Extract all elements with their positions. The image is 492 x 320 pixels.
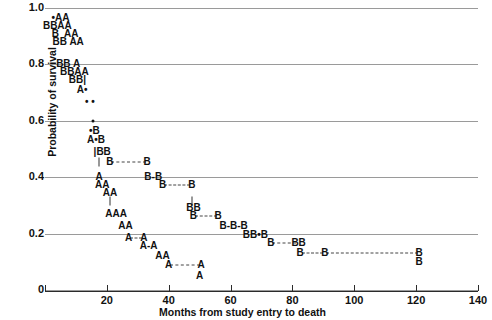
data-point-label: AAA (105, 209, 127, 219)
x-tick (478, 285, 479, 291)
data-point-label: A• (77, 85, 88, 95)
x-tick-label: 140 (458, 294, 492, 306)
data-point-label: A (198, 260, 205, 270)
gridline-y (45, 8, 478, 9)
data-point-label: A (125, 233, 132, 243)
data-point-label: AA (118, 221, 132, 231)
data-point-label: B (267, 238, 274, 248)
x-tick (169, 285, 170, 291)
censored-dot-marker (91, 119, 94, 122)
data-point-label: B (297, 248, 304, 258)
x-tick-label: 60 (211, 294, 251, 306)
censor-connector (195, 216, 217, 217)
x-tick-label: 120 (396, 294, 436, 306)
censor-connector (170, 264, 199, 265)
x-tick-label: 100 (334, 294, 374, 306)
y-tick-label: 0 (4, 284, 44, 295)
data-point-label: • • (85, 97, 95, 107)
tick-marker (109, 196, 110, 205)
censor-connector (111, 161, 145, 162)
x-axis-left-cap (45, 285, 46, 292)
x-tick-label: 20 (87, 294, 127, 306)
data-point-label: B (159, 180, 166, 190)
x-tick (416, 285, 417, 291)
x-tick (292, 285, 293, 291)
y-tick-label: 1.0 (4, 2, 44, 13)
gridline-y (45, 177, 478, 178)
censor-connector (326, 253, 417, 254)
gridline-y (45, 64, 478, 65)
x-tick-label: 80 (272, 294, 312, 306)
x-tick (231, 285, 232, 291)
x-tick (354, 285, 355, 291)
gridline-y (45, 121, 478, 122)
plot-area: •AABBAAB AABB AABB ABBAABB|A•• ••BA•B|BB… (45, 8, 478, 290)
y-tick-label: 0.4 (4, 171, 44, 182)
tick-marker (99, 157, 100, 166)
censor-connector (164, 185, 190, 186)
y-tick-label: 0.2 (4, 228, 44, 239)
y-tick-label: 0.6 (4, 115, 44, 126)
data-point-label: A (165, 260, 172, 270)
data-point-label: B (106, 157, 113, 167)
data-point-label: BB•B (243, 230, 268, 240)
data-point-label: A (196, 271, 203, 281)
x-tick (107, 285, 108, 291)
data-point-label: B (188, 180, 195, 190)
y-tick-label: 0.8 (4, 58, 44, 69)
data-point-label: A•B (87, 135, 105, 145)
data-point-label: B (190, 211, 197, 221)
censor-connector (302, 253, 324, 254)
data-point-label: B (143, 157, 150, 167)
y-axis-title: Probability of survival (46, 22, 58, 182)
data-point-label: B (321, 248, 328, 258)
x-axis-line (45, 291, 478, 292)
x-axis-title: Months from study entry to death (0, 306, 485, 318)
data-point-label: B (416, 257, 423, 267)
x-tick-label: 40 (149, 294, 189, 306)
